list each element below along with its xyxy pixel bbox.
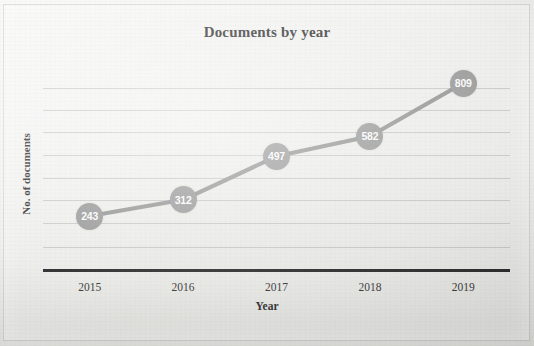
data-point-marker: 312 — [170, 186, 197, 213]
x-axis-tick-label: 2015 — [45, 281, 135, 293]
y-axis-title: No. of documents — [20, 104, 32, 244]
x-axis-tick-label: 2019 — [418, 281, 508, 293]
x-axis-line — [43, 269, 510, 272]
x-axis-tick-label: 2017 — [232, 281, 322, 293]
data-point-label: 809 — [455, 77, 472, 89]
data-point-marker: 243 — [76, 203, 103, 230]
data-point-label: 312 — [175, 194, 192, 206]
data-point-marker: 809 — [450, 70, 477, 97]
data-point-label: 582 — [361, 130, 378, 142]
chart-title: Documents by year — [0, 24, 534, 41]
data-point-label: 497 — [268, 150, 285, 162]
data-point-label: 243 — [81, 210, 98, 222]
x-axis-title: Year — [0, 300, 534, 312]
data-point-marker: 497 — [263, 143, 290, 170]
x-axis-tick-label: 2018 — [325, 281, 415, 293]
chart-page: Documents by year 243312497582809 201520… — [0, 0, 534, 346]
x-axis-tick-label: 2016 — [138, 281, 228, 293]
